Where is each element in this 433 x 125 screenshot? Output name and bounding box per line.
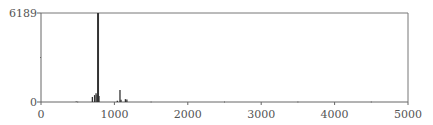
x-tick-label: 0 [38, 108, 45, 121]
x-tick-label: 3000 [247, 108, 275, 121]
x-tick-label: 1000 [100, 108, 128, 121]
y-min-label: 0 [30, 96, 37, 109]
spectrum-chart: 010002000300040005000 6189 0 [0, 0, 433, 125]
plot-frame [41, 13, 408, 102]
x-tick-label: 2000 [174, 108, 202, 121]
x-axis-ticks: 010002000300040005000 [38, 101, 423, 121]
peak-series [76, 13, 127, 102]
x-tick-label: 5000 [394, 108, 422, 121]
y-max-label: 6189 [9, 7, 37, 20]
y-axis-ticks [37, 13, 41, 102]
x-tick-label: 4000 [321, 108, 349, 121]
